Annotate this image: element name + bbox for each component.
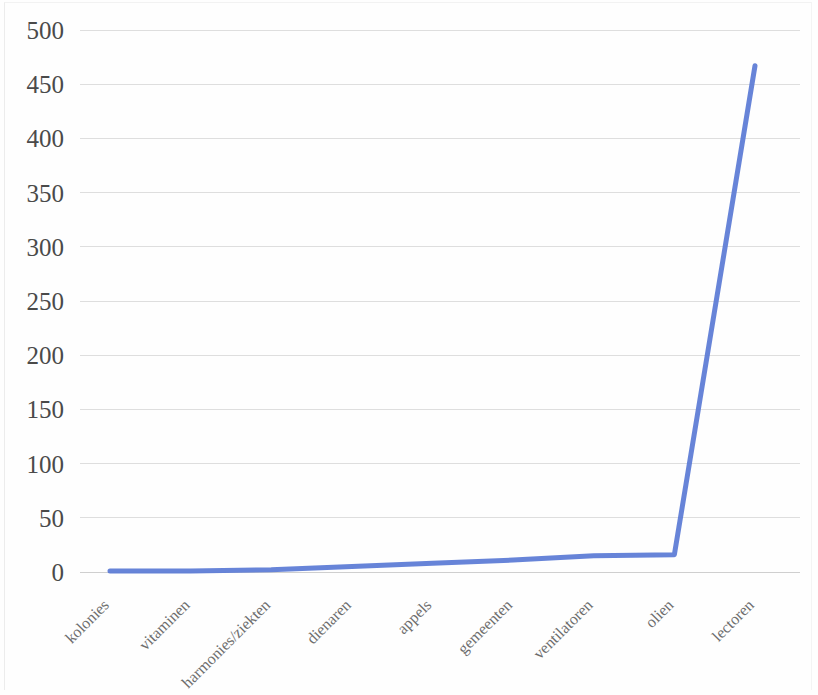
x-axis-tick-label: vitaminen — [135, 596, 192, 653]
line-chart-svg: 050100150200250300350400450500 koloniesv… — [0, 0, 818, 695]
y-axis-tick-label: 400 — [27, 125, 65, 152]
plot-area: 050100150200250300350400450500 koloniesv… — [0, 0, 818, 695]
x-axis-tick-label: kolonies — [62, 596, 112, 646]
x-axis-tick-label: dienaren — [303, 596, 354, 647]
x-axis-tick-label: gemeenten — [454, 596, 516, 658]
y-axis-tick-label: 300 — [27, 234, 65, 261]
y-axis-tick-label: 100 — [27, 451, 65, 478]
y-axis-tick-labels: 050100150200250300350400450500 — [27, 17, 65, 586]
x-axis-tick-label: harmonies/ziekten — [178, 596, 273, 691]
x-axis-tick-label: appels — [394, 596, 436, 638]
x-axis-tick-label: lectoren — [709, 596, 757, 644]
x-axis-tick-label: ventilatoren — [530, 596, 596, 662]
x-axis-tick-labels: koloniesvitaminenharmonies/ziektendienar… — [62, 596, 757, 691]
y-axis-tick-label: 500 — [27, 17, 65, 44]
gridlines-group — [80, 30, 800, 572]
x-axis-tick-label: olien — [642, 596, 677, 631]
y-axis-tick-label: 0 — [52, 559, 65, 586]
chart-container: 050100150200250300350400450500 koloniesv… — [0, 0, 818, 695]
y-axis-tick-label: 50 — [39, 505, 64, 532]
y-axis-tick-label: 150 — [27, 396, 65, 423]
data-series-group — [110, 66, 755, 571]
y-axis-tick-label: 200 — [27, 342, 65, 369]
y-axis-tick-label: 350 — [27, 180, 65, 207]
y-axis-tick-label: 450 — [27, 71, 65, 98]
data-series-line — [110, 66, 755, 571]
y-axis-tick-label: 250 — [27, 288, 65, 315]
